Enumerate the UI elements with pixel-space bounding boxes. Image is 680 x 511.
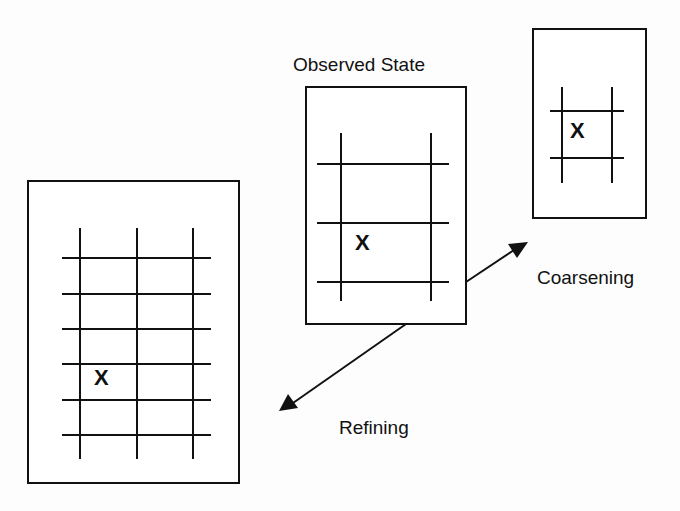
observed-state-panel — [306, 87, 466, 324]
refined-x-marker: X — [94, 367, 109, 389]
refining-arrow — [279, 324, 406, 411]
coarsened-panel — [533, 29, 646, 218]
coarsening-arrow — [466, 242, 528, 282]
refined-panel — [28, 181, 239, 483]
coarsening-label: Coarsening — [537, 268, 634, 287]
coarsened-x-marker: X — [570, 120, 585, 142]
observed-state-label: Observed State — [293, 55, 425, 74]
refining-label: Refining — [339, 418, 409, 437]
arrowhead-icon — [508, 242, 528, 258]
diagram-canvas: Observed State Coarsening Refining X X X — [0, 0, 680, 511]
observed-x-marker: X — [355, 232, 370, 254]
